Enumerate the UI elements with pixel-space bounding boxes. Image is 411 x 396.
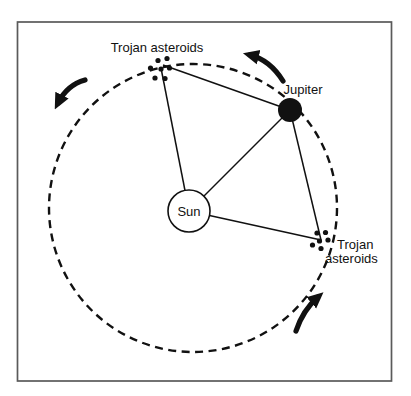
asteroid-dot-icon xyxy=(162,76,167,81)
jupiter-dot xyxy=(278,98,302,122)
asteroid-dot-icon xyxy=(167,65,172,70)
asteroid-dot-icon xyxy=(148,65,153,70)
trojan-leading-label: Trojan asteroids xyxy=(111,40,204,55)
asteroid-dot-icon xyxy=(314,230,319,235)
asteroid-dot-icon xyxy=(318,246,323,251)
asteroid-dot-icon xyxy=(323,230,328,235)
jupiter-trojan-orbit-diagram: Sun Jupiter Trojan asteroids Trojan aste… xyxy=(0,0,411,396)
trojan-trailing-label-line1: Trojan xyxy=(337,237,373,252)
asteroid-dot-icon xyxy=(152,75,157,80)
asteroid-dot-icon xyxy=(325,237,330,242)
asteroid-dot-icon xyxy=(155,58,160,63)
asteroid-dot-icon xyxy=(164,56,169,61)
trojan-trailing-label-line2: asteroids xyxy=(325,251,378,266)
asteroid-dot-icon xyxy=(310,242,315,247)
sun-label: Sun xyxy=(177,204,200,219)
asteroid-dot-icon xyxy=(317,238,322,243)
orbital-diagram-figure: Sun Jupiter Trojan asteroids Trojan aste… xyxy=(0,0,411,396)
asteroid-dot-icon xyxy=(158,66,163,71)
jupiter-label: Jupiter xyxy=(283,82,323,97)
